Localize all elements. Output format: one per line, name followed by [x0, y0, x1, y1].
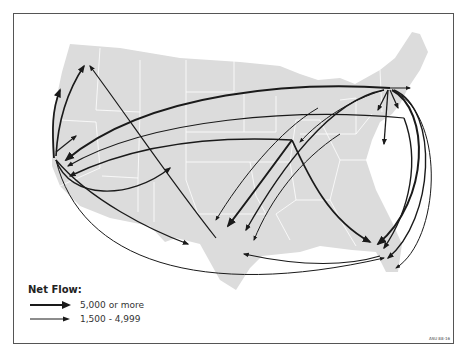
legend-item-thick: 5,000 or more	[28, 298, 144, 312]
figure-code: ASU 88-16	[429, 336, 450, 341]
thin-arrow-icon	[28, 314, 72, 324]
legend-label-thick: 5,000 or more	[80, 300, 144, 310]
legend-item-thin: 1,500 - 4,999	[28, 312, 144, 326]
legend: Net Flow: 5,000 or more 1,500 - 4,999	[28, 284, 144, 326]
legend-title: Net Flow:	[28, 284, 144, 295]
legend-label-thin: 1,500 - 4,999	[80, 314, 141, 324]
thick-arrow-icon	[28, 300, 72, 310]
